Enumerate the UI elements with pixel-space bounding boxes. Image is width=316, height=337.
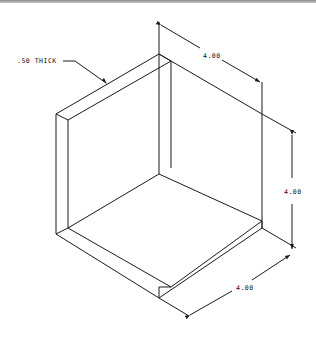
- dimension-bottom: 4.00: [159, 255, 290, 316]
- dim-bottom-label: 4.00: [236, 284, 254, 292]
- box-geometry: [56, 54, 262, 298]
- dim-top-label: 4.00: [203, 52, 221, 60]
- dimension-top: 4.00: [159, 22, 262, 114]
- dim-right-label: 4.00: [284, 188, 302, 196]
- thickness-callout: .50 THICK: [17, 57, 107, 84]
- isometric-box-drawing: 4.00 4.00 4.00 .50 THICK: [0, 0, 316, 337]
- thickness-label: .50 THICK: [17, 57, 57, 65]
- dimension-right: 4.00: [262, 114, 302, 249]
